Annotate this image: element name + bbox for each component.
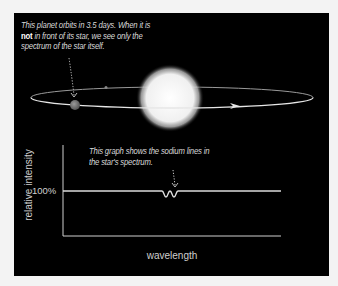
orbit-caption-line-2-rest: in front of its star, we see only the (32, 31, 142, 41)
orbit-caption-line-2: not in front of its star, we see only th… (21, 31, 188, 42)
graph-caption-line-1: This graph shows the sodium lines in (89, 146, 224, 157)
orbit-direction-arrow-icon (230, 103, 240, 109)
spectrum-line (63, 191, 281, 197)
star (136, 64, 204, 132)
y-tick-100-percent: 100% (32, 185, 56, 196)
graph-caption: This graph shows the sodium lines in the… (89, 146, 224, 167)
planet (70, 100, 80, 110)
x-axis-label: wavelength (147, 250, 198, 261)
diagram-art (14, 13, 329, 276)
orbit-back-marker-icon (105, 86, 108, 89)
orbit-caption-line-1: This planet orbits in 3.5 days. When it … (21, 20, 188, 31)
caption-pointer-arrow (69, 58, 74, 95)
orbit-caption-emphasis: not (21, 31, 32, 41)
graph-pointer-arrow (173, 170, 175, 185)
diagram-panel: This planet orbits in 3.5 days. When it … (14, 13, 329, 276)
graph-caption-line-2: the star's spectrum. (89, 157, 224, 168)
orbit-caption: This planet orbits in 3.5 days. When it … (21, 20, 188, 52)
orbit-caption-line-3: spectrum of the star itself. (21, 41, 188, 52)
